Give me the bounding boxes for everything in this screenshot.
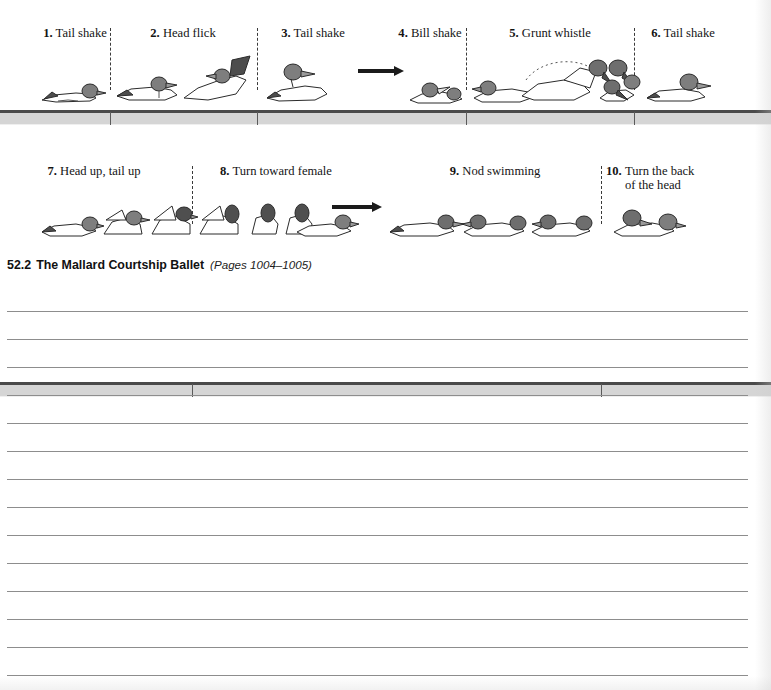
note-line[interactable] [7, 479, 748, 480]
note-line[interactable] [7, 591, 748, 592]
note-line[interactable] [7, 367, 748, 368]
note-line[interactable] [7, 675, 748, 676]
note-line[interactable] [7, 311, 748, 312]
worksheet-page: 1. Tail shake 2. Head flick 3. Tail shak… [0, 0, 771, 690]
note-line[interactable] [7, 507, 748, 508]
note-line[interactable] [7, 619, 748, 620]
note-line[interactable] [7, 535, 748, 536]
note-line[interactable] [7, 647, 748, 648]
note-lines-area [0, 0, 771, 690]
note-line[interactable] [7, 423, 748, 424]
note-line[interactable] [7, 451, 748, 452]
note-line[interactable] [7, 563, 748, 564]
note-line[interactable] [7, 395, 748, 396]
note-line[interactable] [7, 339, 748, 340]
